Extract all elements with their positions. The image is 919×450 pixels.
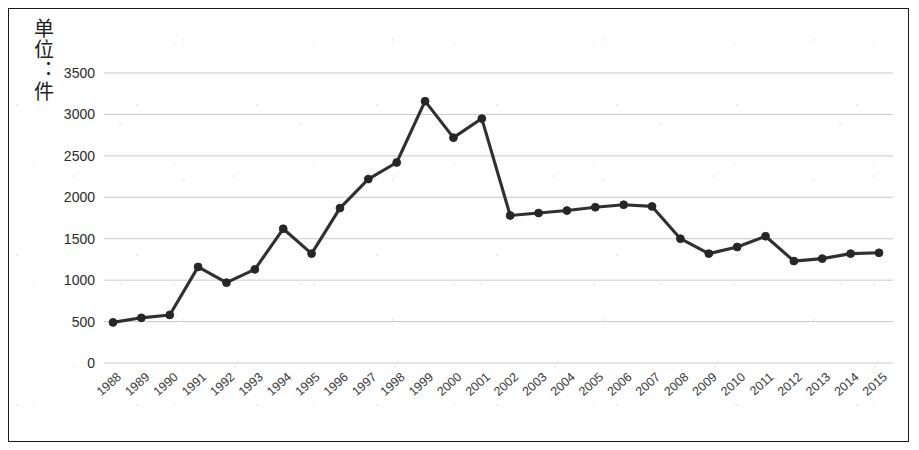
- x-tick-label: 2003: [520, 370, 550, 399]
- y-tick-label: 2500: [64, 148, 95, 164]
- x-tick-label: 2005: [576, 370, 606, 399]
- data-point-marker: [790, 257, 798, 265]
- y-tick-label: 500: [72, 314, 96, 330]
- data-point-marker: [563, 207, 571, 215]
- data-point-marker: [506, 212, 514, 220]
- data-point-marker: [677, 235, 685, 243]
- data-point-marker: [166, 311, 174, 319]
- data-point-marker: [450, 134, 458, 142]
- data-point-marker: [137, 314, 145, 322]
- y-tick-label: 2000: [64, 189, 95, 205]
- data-point-marker: [308, 250, 316, 258]
- x-tick-label: 2000: [434, 370, 464, 399]
- data-point-marker: [478, 115, 486, 123]
- series-group: [109, 97, 883, 326]
- data-point-marker: [875, 249, 883, 257]
- data-point-marker: [705, 250, 713, 258]
- x-tick-label: 1996: [321, 370, 351, 399]
- data-point-marker: [818, 255, 826, 263]
- x-tick-label: 2004: [548, 370, 578, 399]
- x-tick-label: 2009: [690, 370, 720, 399]
- data-point-marker: [336, 204, 344, 212]
- data-point-marker: [591, 203, 599, 211]
- x-tick-label: 1994: [264, 370, 294, 399]
- data-point-marker: [109, 319, 117, 327]
- x-tick-label: 2006: [605, 370, 635, 399]
- series-line-jian-shu: [113, 101, 879, 322]
- data-point-marker: [421, 97, 429, 105]
- y-tick-label: 3500: [64, 65, 95, 81]
- x-tick-label: 1990: [151, 370, 181, 399]
- y-tick-label: 3000: [64, 106, 95, 122]
- x-tick-label: 2001: [463, 370, 493, 399]
- x-tick-label: 2008: [661, 370, 691, 399]
- x-tick-label: 2011: [747, 370, 776, 398]
- data-point-marker: [648, 203, 656, 211]
- data-point-marker: [364, 175, 372, 183]
- chart-svg: 0500100015002000250030003500 19881989199…: [0, 0, 919, 450]
- x-tick-label: 2013: [803, 370, 833, 399]
- x-tick-label: 2002: [491, 370, 521, 399]
- data-point-marker: [251, 265, 259, 273]
- data-point-marker: [393, 159, 401, 167]
- series-marker-group: [109, 97, 883, 326]
- x-tick-label-group: 1988198919901991199219931994199519961997…: [94, 370, 890, 399]
- y-tick-label: 1000: [64, 272, 95, 288]
- data-point-marker: [223, 279, 231, 287]
- y-tick-label-group: 0500100015002000250030003500: [64, 65, 95, 371]
- x-tick-label: 1992: [207, 370, 237, 399]
- x-tick-label: 1989: [122, 370, 152, 399]
- data-point-marker: [194, 263, 202, 271]
- x-tick-label: 1999: [406, 370, 436, 399]
- x-tick-label: 2012: [775, 370, 805, 399]
- x-tick-label: 2010: [718, 370, 748, 399]
- data-point-marker: [535, 209, 543, 217]
- x-tick-label: 1993: [236, 370, 266, 399]
- x-tick-label: 2015: [860, 370, 890, 399]
- x-tick-label: 1995: [293, 370, 323, 399]
- x-tick-label: 1991: [179, 370, 209, 399]
- y-tick-label: 0: [87, 355, 95, 371]
- data-point-marker: [847, 250, 855, 258]
- x-tick-label: 2007: [633, 370, 663, 399]
- y-tick-label: 1500: [64, 231, 95, 247]
- data-point-marker: [620, 201, 628, 209]
- x-tick-label: 1988: [94, 370, 124, 399]
- data-point-marker: [733, 243, 741, 251]
- data-point-marker: [279, 225, 287, 233]
- data-point-marker: [762, 232, 770, 240]
- gridlines-group: [104, 73, 893, 363]
- x-tick-label: 1998: [378, 370, 408, 399]
- x-tick-label: 1997: [349, 370, 379, 399]
- line-chart: 0500100015002000250030003500 19881989199…: [0, 0, 919, 450]
- x-tick-label: 2014: [832, 370, 862, 399]
